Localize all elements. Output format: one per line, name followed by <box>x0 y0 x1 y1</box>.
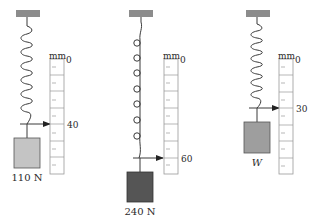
ceiling-support <box>16 10 40 17</box>
mm-scale <box>50 59 64 174</box>
reading-label: 30 <box>296 104 308 114</box>
spring-coils <box>134 40 140 139</box>
coil-spring <box>251 24 262 108</box>
panel-spring-2: 240 N mm 0 60 <box>124 10 192 217</box>
weight-block <box>14 138 40 168</box>
weight-label: W <box>252 157 263 168</box>
reading-label: 40 <box>67 120 79 130</box>
ceiling-support <box>129 10 153 17</box>
unit-label: mm <box>49 51 67 61</box>
weight-label: 110 N <box>11 172 42 183</box>
spring-diagram: 110 N mm 0 40 <box>0 0 319 224</box>
mm-scale <box>164 59 178 174</box>
ceiling-support <box>246 10 270 17</box>
scale-zero-label: 0 <box>295 55 301 65</box>
mm-scale <box>279 59 293 174</box>
weight-block <box>244 122 270 153</box>
unit-label: mm <box>278 51 296 61</box>
scale-zero-label: 0 <box>66 55 72 65</box>
panel-spring-3: W mm 0 30 <box>244 10 308 174</box>
coil-spring <box>21 26 32 124</box>
unit-label: mm <box>163 51 181 61</box>
weight-label: 240 N <box>124 206 155 217</box>
weight-block <box>127 172 153 202</box>
scale-zero-label: 0 <box>180 55 186 65</box>
reading-label: 60 <box>181 154 193 164</box>
panel-spring-1: 110 N mm 0 40 <box>11 10 78 183</box>
